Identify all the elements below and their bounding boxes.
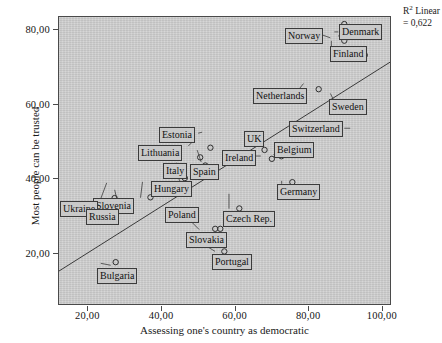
point-label-switzerland[interactable]: Switzerland: [289, 121, 343, 137]
y-axis-title: Most people can be trusted: [29, 46, 41, 286]
x-tick-label: 20,00: [75, 310, 100, 321]
data-point-marker[interactable]: [212, 226, 217, 231]
data-point-marker[interactable]: [316, 87, 321, 92]
point-label-norway[interactable]: Norway: [285, 28, 323, 44]
r2-value: = 0,622: [403, 18, 440, 30]
point-label-ireland[interactable]: Ireland: [222, 150, 256, 166]
y-tick-label: 20,00: [0, 247, 50, 258]
point-label-slovakia[interactable]: Slovakia: [186, 232, 227, 248]
point-label-germany[interactable]: Germany: [277, 184, 320, 200]
r2-linear-text: Linear: [415, 6, 440, 16]
r2-linear-label: R2 Linear: [403, 4, 440, 18]
point-label-uk[interactable]: UK: [244, 131, 264, 147]
point-label-hungary[interactable]: Hungary: [151, 181, 192, 197]
point-label-bulgaria[interactable]: Bulgaria: [97, 268, 137, 284]
y-tick-mark: [53, 178, 58, 179]
x-tick-label: 100,00: [367, 310, 397, 321]
point-label-spain[interactable]: Spain: [190, 164, 219, 180]
point-label-czech-rep[interactable]: Czech Rep.: [223, 211, 275, 227]
point-label-lithuania[interactable]: Lithuania: [138, 145, 182, 161]
y-tick-label: 80,00: [0, 24, 50, 35]
point-label-portugal[interactable]: Portugal: [212, 254, 252, 270]
leader-line: [188, 142, 192, 146]
data-point-marker[interactable]: [208, 145, 213, 150]
x-tick-label: 80,00: [296, 310, 321, 321]
point-label-belgium[interactable]: Belgium: [274, 142, 314, 158]
point-label-sweden[interactable]: Sweden: [329, 99, 367, 115]
data-point-marker[interactable]: [113, 259, 118, 264]
y-tick-label: 40,00: [0, 173, 50, 184]
point-label-denmark[interactable]: Denmark: [339, 24, 382, 40]
data-point-marker[interactable]: [218, 226, 223, 231]
point-label-italy[interactable]: Italy: [163, 163, 187, 179]
leader-line: [198, 132, 202, 133]
leader-line: [101, 183, 107, 199]
y-tick-mark: [53, 253, 58, 254]
point-label-netherlands[interactable]: Netherlands: [253, 88, 307, 104]
leader-line: [101, 263, 111, 265]
leader-line: [141, 182, 143, 198]
y-tick-mark: [53, 104, 58, 105]
y-tick-mark: [53, 29, 58, 30]
point-label-finland[interactable]: Finland: [330, 46, 367, 62]
x-tick-label: 60,00: [222, 310, 247, 321]
y-tick-label: 60,00: [0, 98, 50, 109]
point-label-poland[interactable]: Poland: [165, 207, 199, 223]
scatter-chart: R2 Linear = 0,622 20,0040,0060,0080,00 2…: [0, 0, 442, 343]
r2-annotation: R2 Linear = 0,622: [403, 4, 440, 29]
point-label-russia[interactable]: Russia: [86, 209, 119, 225]
x-axis-title: Assessing one's country as democratic: [58, 324, 391, 336]
point-label-estonia[interactable]: Estonia: [159, 127, 195, 143]
data-point-marker[interactable]: [262, 147, 267, 152]
x-tick-label: 40,00: [149, 310, 174, 321]
